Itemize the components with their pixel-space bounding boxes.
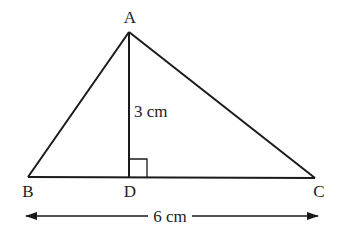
side-bc — [28, 177, 315, 178]
right-angle-marker — [129, 159, 147, 177]
vertex-label-b: B — [22, 182, 33, 201]
vertex-label-a: A — [124, 8, 137, 27]
base-label: 6 cm — [153, 207, 187, 226]
vertex-label-d: D — [124, 182, 136, 201]
triangle-diagram: A B D C 3 cm 6 cm — [0, 0, 342, 240]
side-ab — [28, 32, 129, 177]
vertex-label-c: C — [313, 182, 324, 201]
height-label: 3 cm — [134, 102, 168, 121]
